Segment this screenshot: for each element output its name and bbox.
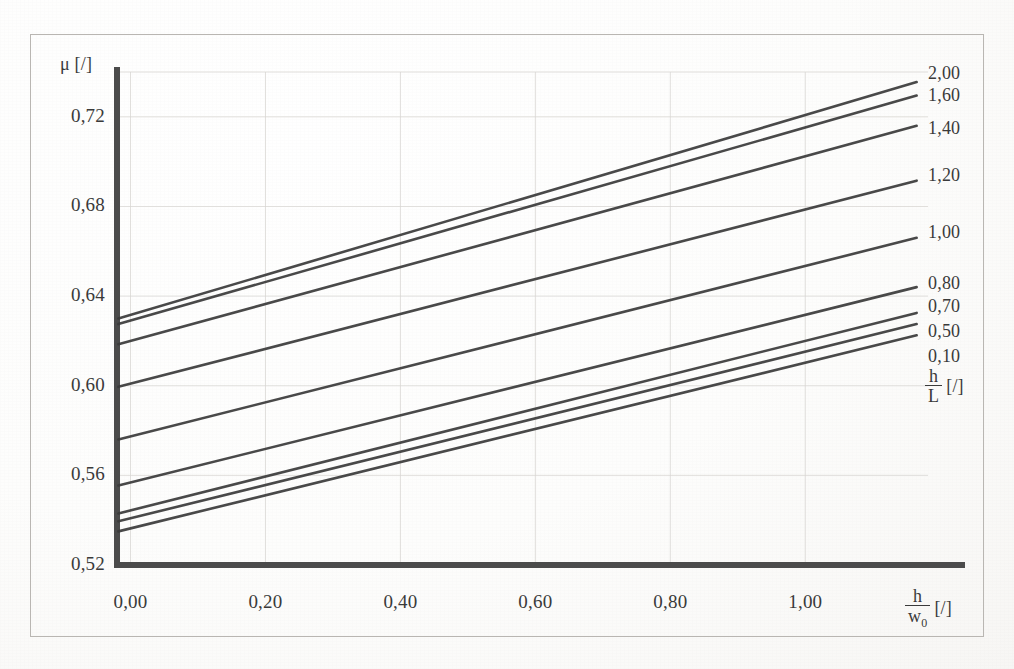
legend-numerator: h	[925, 367, 942, 385]
legend-fraction: h L	[925, 367, 942, 406]
x-axis-title: h w0 [/]	[905, 586, 952, 629]
series-line-1-00	[118, 238, 916, 440]
x-axis-unit: [/]	[934, 598, 952, 619]
legend-label-1-40: 1,40	[928, 118, 998, 139]
x-axis-numerator: h	[905, 587, 930, 605]
series-line-0-50	[118, 324, 916, 521]
legend-label-0-10: 0,10	[928, 346, 998, 367]
x-tick-label: 0,00	[90, 591, 170, 613]
legend-label-2-00: 2,00	[928, 63, 998, 84]
x-tick-label: 0,60	[495, 591, 575, 613]
x-axis-denominator: w0	[905, 605, 930, 629]
y-tick-label: 0,72	[35, 105, 105, 127]
legend-title: h L [/]	[925, 366, 964, 406]
y-tick-label: 0,56	[35, 463, 105, 485]
y-tick-label: 0,60	[35, 374, 105, 396]
legend-unit: [/]	[946, 376, 964, 397]
y-tick-label: 0,64	[35, 284, 105, 306]
series-line-0-80	[118, 287, 916, 485]
series-line-1-40	[118, 126, 916, 344]
legend-label-0-80: 0,80	[928, 273, 998, 294]
y-axis-title: μ [/]	[60, 54, 92, 75]
x-tick-label: 1,00	[765, 591, 845, 613]
x-tick-label: 0,40	[360, 591, 440, 613]
y-tick-label: 0,68	[35, 194, 105, 216]
series-line-1-60	[118, 96, 916, 325]
y-axis-symbol: μ	[60, 54, 70, 74]
x-axis-fraction: h w0	[905, 587, 930, 629]
legend-label-1-20: 1,20	[928, 165, 998, 186]
x-axis-denominator-subscript: 0	[921, 616, 927, 630]
legend-label-1-60: 1,60	[928, 85, 998, 106]
y-axis-unit: [/]	[75, 54, 93, 74]
series-line-0-70	[118, 313, 916, 514]
legend-label-0-70: 0,70	[928, 296, 998, 317]
x-tick-label: 0,20	[225, 591, 305, 613]
legend-label-1-00: 1,00	[928, 222, 998, 243]
x-tick-label: 0,80	[630, 591, 710, 613]
chart-plot-area	[0, 0, 1014, 669]
legend-label-0-50: 0,50	[928, 321, 998, 342]
legend-denominator: L	[925, 385, 942, 405]
series-line-0-10	[118, 335, 916, 531]
y-tick-label: 0,52	[35, 553, 105, 575]
data-series-lines	[118, 82, 916, 531]
